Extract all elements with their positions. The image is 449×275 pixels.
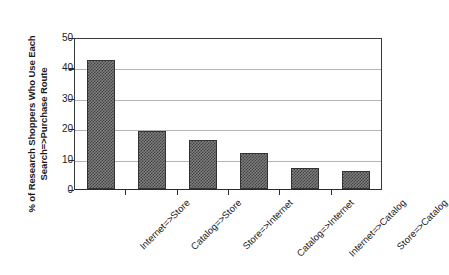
bars-layer — [75, 39, 381, 189]
bar-slot — [279, 39, 330, 189]
bar-slot — [177, 39, 228, 189]
x-tick-mark-2 — [177, 190, 178, 195]
bar-slot — [228, 39, 279, 189]
bar-catalog-to-internet — [240, 153, 268, 189]
x-label-internet-to-catalog: Internet=>Catalog — [346, 197, 408, 259]
bar-internet-to-catalog — [291, 168, 319, 189]
bar-store-to-internet — [189, 140, 217, 190]
bar-slot — [330, 39, 381, 189]
x-tick-mark-5 — [331, 190, 332, 195]
bar-internet-to-store — [87, 60, 115, 189]
y-axis-title-line-1: % of Research Shoppers Who Use Each — [26, 35, 39, 212]
x-tick-mark-4 — [279, 190, 280, 195]
x-tick-mark-3 — [228, 190, 229, 195]
x-tick-mark-1 — [125, 190, 126, 195]
bar-slot — [126, 39, 177, 189]
bar-store-to-catalog — [342, 171, 370, 189]
x-label-store-to-internet: Store=>Internet — [240, 197, 294, 251]
x-label-internet-to-store: Internet=>Store — [137, 197, 191, 251]
x-label-catalog-to-store: Catalog=>Store — [188, 197, 243, 252]
plot-area — [74, 38, 382, 190]
bar-catalog-to-store — [138, 131, 166, 190]
bar-slot — [75, 39, 126, 189]
